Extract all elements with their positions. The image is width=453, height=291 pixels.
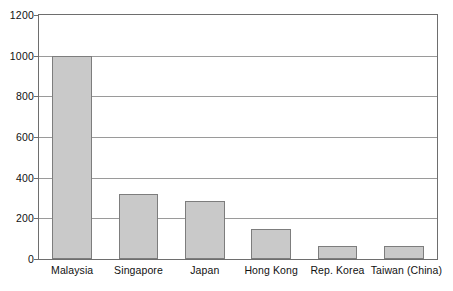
y-axis-tick-label: 1200 (0, 10, 34, 20)
y-axis-tick-label: 1000 (0, 51, 34, 61)
y-axis-tick-label: 0 (0, 254, 34, 264)
bar (384, 246, 424, 259)
bars-container (39, 15, 437, 259)
x-axis-tick-label: Hong Kong (238, 264, 304, 276)
y-axis: 020040060080010001200 (0, 14, 34, 260)
bar (185, 201, 225, 259)
y-axis-tick-label: 400 (0, 173, 34, 183)
x-axis-tick-label: Japan (172, 264, 238, 276)
y-axis-tick-label: 200 (0, 213, 34, 223)
plot-area (38, 14, 438, 260)
y-axis-tick-label: 600 (0, 132, 34, 142)
bar (251, 229, 291, 260)
x-axis-tick-label: Malaysia (39, 264, 105, 276)
bar-slot (371, 15, 437, 259)
bar-slot (105, 15, 171, 259)
x-axis-tick-label: Rep. Korea (304, 264, 370, 276)
x-axis-tick-label: Singapore (105, 264, 171, 276)
bar-slot (304, 15, 370, 259)
bar (119, 194, 159, 259)
bar-slot (238, 15, 304, 259)
bar-chart: 020040060080010001200 MalaysiaSingaporeJ… (0, 0, 453, 291)
y-axis-tick-label: 800 (0, 91, 34, 101)
bar-slot (172, 15, 238, 259)
bar (318, 246, 358, 259)
x-axis: MalaysiaSingaporeJapanHong KongRep. Kore… (39, 264, 437, 284)
bar (52, 56, 92, 259)
bar-slot (39, 15, 105, 259)
x-axis-tick-label: Taiwan (China) (371, 264, 437, 276)
